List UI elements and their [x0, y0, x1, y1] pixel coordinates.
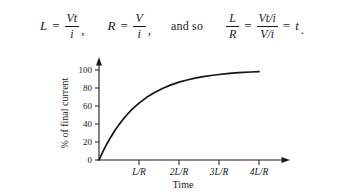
equation-lhs-l: L: [39, 18, 48, 34]
equals-sign-1: =: [48, 18, 63, 34]
y-tick-label-60: 60: [83, 101, 93, 111]
comma-2: ,: [147, 22, 151, 40]
fraction-numerator: L: [227, 12, 238, 25]
x-axis-ticks: [139, 160, 259, 165]
y-tick-label-40: 40: [83, 119, 93, 129]
fraction-denominator: i: [136, 28, 143, 41]
fraction-numerator: Vt: [65, 12, 80, 25]
equals-sign-2: =: [116, 18, 131, 34]
fraction-denominator: R: [227, 28, 238, 41]
current-rise-curve: [99, 72, 259, 160]
y-tick-label-0: 0: [88, 155, 93, 165]
fraction-numerator: V: [134, 12, 145, 25]
x-axis-title: Time: [173, 179, 194, 190]
figure-container: L = Vt i , R = V i , and so L: [0, 0, 343, 192]
x-axis-arrow-icon: [282, 157, 291, 163]
fraction-v-over-i: V i: [133, 12, 146, 41]
equals-sign-4: =: [279, 18, 294, 34]
equation-line: L = Vt i , R = V i , and so L: [0, 8, 343, 44]
fraction-vti-over-vi: Vt/i V/i: [257, 12, 278, 41]
equation-term-ratio: L R = Vt/i V/i = t .: [225, 12, 304, 41]
equation-lhs-r: R: [106, 18, 116, 34]
x-tick-label-3lr: 3L/R: [209, 167, 229, 177]
fraction-denominator: i: [68, 28, 75, 41]
period-end: .: [300, 22, 304, 40]
y-tick-label-100: 100: [79, 65, 93, 75]
equation-term-l: L = Vt i ,: [39, 12, 85, 41]
y-tick-label-20: 20: [83, 137, 93, 147]
equation-connector-text: and so: [171, 19, 203, 34]
x-tick-label-4lr: 4L/R: [250, 167, 269, 177]
x-tick-label-2lr: 2L/R: [170, 167, 189, 177]
chart-svg: 0 20 40 60 80 100 L/R 2L/R 3L/R 4L/R Tim…: [0, 48, 343, 192]
fraction-denominator: V/i: [258, 28, 276, 41]
fraction-numerator: Vt/i: [257, 12, 278, 25]
y-axis-title: % of final current: [59, 77, 70, 148]
fraction-vt-over-i: Vt i: [65, 12, 80, 41]
y-tick-label-80: 80: [83, 83, 93, 93]
comma-1: ,: [80, 22, 84, 40]
y-axis-ticks: [95, 70, 99, 160]
x-tick-label-lr: L/R: [131, 167, 146, 177]
fraction-l-over-r: L R: [226, 12, 239, 41]
equals-sign-3: =: [240, 18, 255, 34]
equation-term-r: R = V i ,: [106, 12, 151, 41]
y-axis-arrow-icon: [96, 57, 102, 66]
current-rise-chart: 0 20 40 60 80 100 L/R 2L/R 3L/R 4L/R Tim…: [0, 48, 343, 192]
